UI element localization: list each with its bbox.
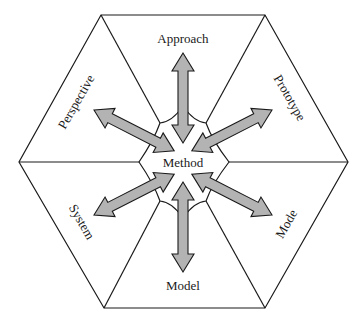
segment-label-perspective: Perspective <box>55 72 98 132</box>
arrow-prototype <box>187 100 277 160</box>
arrow-approach <box>172 53 194 143</box>
arrow-model <box>172 182 194 272</box>
segment-label-model: Model <box>166 278 200 293</box>
segment-label-prototype: Prototype <box>271 72 309 123</box>
segment-label-system: System <box>66 201 98 242</box>
arrow-system <box>89 164 179 224</box>
segment-label-approach: Approach <box>157 31 209 46</box>
center-label: Method <box>163 155 204 170</box>
arrow-mode <box>187 164 277 224</box>
segment-label-mode: Mode <box>272 207 300 241</box>
hexagon-method-diagram: Method Approach Prototype Mode Model Sys… <box>0 0 361 323</box>
arrow-perspective <box>89 100 179 160</box>
